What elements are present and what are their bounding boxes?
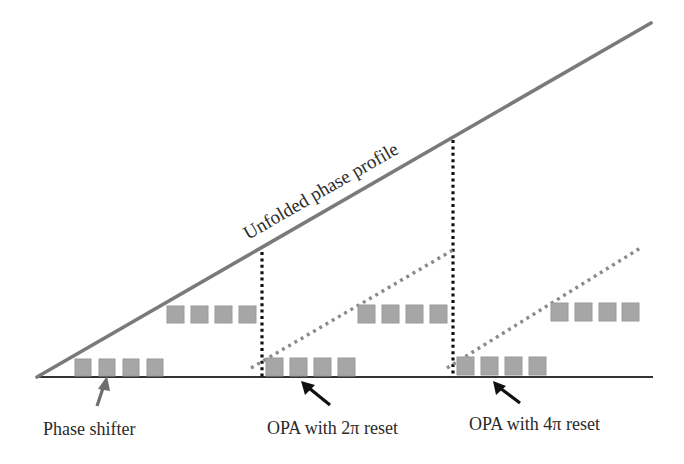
- opa-4pi-reset-label: OPA with 4π reset: [469, 414, 600, 434]
- opa-2pi-arrow-icon: [301, 381, 330, 405]
- opa-2pi-reset-label: OPA with 2π reset: [267, 418, 398, 438]
- phase-shifter-element: [457, 357, 474, 375]
- unfolded-phase-profile-line: [37, 23, 651, 377]
- phase-shifter-element: [529, 357, 546, 375]
- phase-shifter-element: [99, 359, 115, 376]
- unfolded-phase-profile-label: Unfolded phase profile: [240, 138, 402, 244]
- phase-shifter-element: [551, 303, 568, 321]
- phase-shifter-element: [622, 303, 639, 321]
- phase-shifter-element: [191, 306, 208, 323]
- phase-shifter-element: [481, 357, 498, 375]
- phase-profile-diagram: Unfolded phase profile: [0, 0, 684, 464]
- phase-shifter-element: [338, 358, 355, 376]
- phase-shifter-element: [430, 305, 447, 323]
- opa-4pi-arrow-icon: [493, 381, 520, 403]
- phase-shifter-element: [123, 359, 139, 376]
- phase-shifter-element: [382, 305, 399, 323]
- phase-shifter-element: [314, 358, 331, 376]
- phase-shifter-element: [290, 358, 307, 376]
- phase-shifter-element: [406, 305, 423, 323]
- phase-shifter-element: [599, 303, 616, 321]
- phase-shifter-element: [75, 359, 91, 376]
- phase-shifter-element: [358, 305, 375, 323]
- phase-shifter-arrow-icon: [97, 376, 110, 406]
- opa-2pi-group: [266, 305, 447, 376]
- phase-shifter-element: [266, 358, 283, 376]
- phase-shifter-element: [239, 306, 256, 323]
- phase-shifter-element: [575, 303, 592, 321]
- phase-shifter-element: [167, 306, 184, 323]
- phase-shifter-element: [147, 359, 163, 376]
- phase-shifter-element: [505, 357, 522, 375]
- opa-4pi-group: [457, 303, 639, 375]
- phase-shifter-label: Phase shifter: [43, 419, 135, 439]
- phase-shifter-element: [215, 306, 232, 323]
